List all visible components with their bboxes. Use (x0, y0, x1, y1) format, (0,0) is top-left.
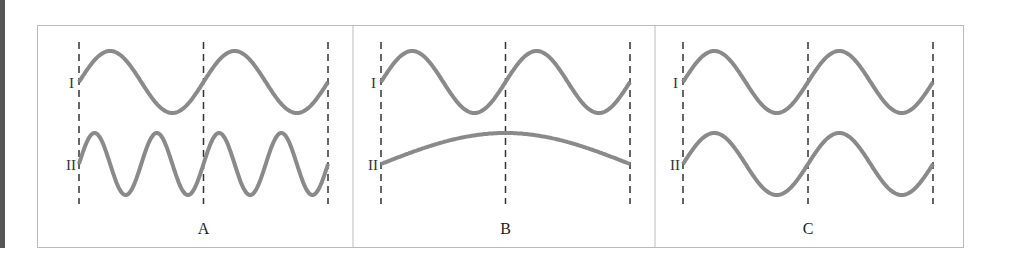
panel-b: IIIB (368, 42, 630, 237)
wave-label-i: I (371, 75, 376, 91)
wave-label-i: I (673, 75, 678, 91)
wave-ii (381, 133, 630, 164)
wave-label-i: I (69, 75, 74, 91)
panel-label: B (500, 220, 511, 237)
panel-label: A (198, 220, 210, 237)
wave-label-ii: II (368, 157, 378, 173)
panel-a: IIIA (66, 42, 328, 237)
panel-label: C (803, 220, 814, 237)
wave-label-ii: II (670, 157, 680, 173)
panel-c: IIIC (670, 42, 933, 237)
wave-label-ii: II (66, 157, 76, 173)
wave-diagram: IIIAIIIBIIIC (0, 0, 1011, 265)
